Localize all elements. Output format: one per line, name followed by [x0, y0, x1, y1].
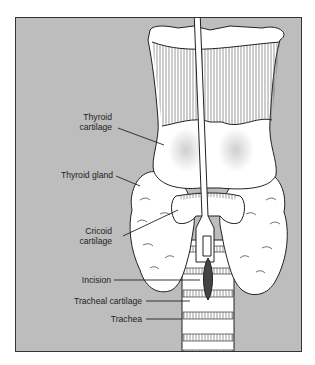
label-thyroid-gland: Thyroid gland [40, 170, 113, 180]
label-incision: Incision [60, 275, 111, 285]
label-cricoid-cartilage: Cricoid cartilage [60, 226, 112, 246]
anatomy-illustration [0, 0, 315, 365]
label-line: cartilage [70, 122, 112, 132]
label-line: cartilage [60, 236, 112, 246]
label-line: Thyroid gland [40, 170, 113, 180]
label-line: Incision [60, 275, 111, 285]
label-thyroid-cartilage: Thyroid cartilage [70, 112, 112, 132]
label-tracheal-cartilage: Tracheal cartilage [40, 296, 142, 306]
label-line: Thyroid [70, 112, 112, 122]
label-line: Cricoid [60, 226, 112, 236]
label-trachea: Trachea [80, 314, 142, 324]
thyroid-cartilage-shape [148, 26, 284, 189]
label-line: Trachea [80, 314, 142, 324]
label-line: Tracheal cartilage [40, 296, 142, 306]
incision-shape [204, 258, 213, 300]
